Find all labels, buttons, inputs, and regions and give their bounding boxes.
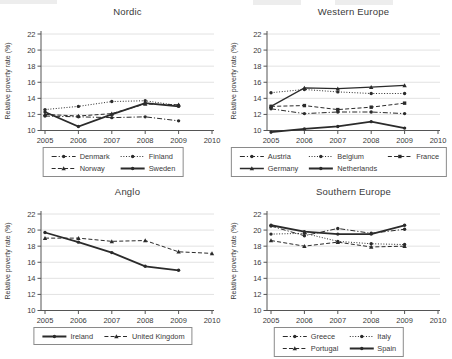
legend-label: Greece	[311, 332, 335, 341]
data-point-marker	[131, 154, 134, 157]
y-tick-label: 18	[253, 242, 261, 251]
data-point-marker	[43, 110, 46, 113]
legend-entry-italy: Italy	[348, 330, 396, 342]
data-point-marker	[403, 101, 406, 104]
data-point-marker	[360, 346, 363, 349]
legend: IrelandUnited Kingdom	[33, 327, 192, 345]
plot-area: 10121416182022200520062007200820092010	[0, 180, 226, 326]
x-tick-label: 2009	[170, 136, 187, 145]
data-point-marker	[144, 101, 147, 104]
y-tick-label: 18	[253, 62, 261, 71]
y-tick-label: 20	[253, 226, 261, 235]
x-tick-label: 2005	[37, 316, 54, 325]
legend: AustriaBelgiumFranceGermanyNetherlands	[231, 147, 447, 177]
data-point-marker	[403, 228, 406, 231]
y-tick-label: 22	[253, 30, 261, 39]
data-point-marker	[269, 232, 272, 235]
y-tick-label: 16	[27, 258, 35, 267]
chart-panel-southern-europe: Southern Europe Relative poverty rate (%…	[226, 180, 452, 359]
legend-entry-norway: Norway	[51, 162, 110, 174]
legend-line-sample	[348, 344, 374, 353]
x-tick-label: 2008	[363, 316, 380, 325]
chart-panel-nordic: Nordic Relative poverty rate (%) 1012141…	[0, 0, 226, 180]
data-point-marker	[403, 92, 406, 95]
data-point-marker	[398, 154, 401, 157]
data-point-marker	[320, 166, 323, 169]
data-point-marker	[370, 232, 373, 235]
data-point-marker	[110, 113, 113, 116]
data-point-marker	[370, 105, 373, 108]
chart-grid: Nordic Relative poverty rate (%) 1012141…	[0, 0, 452, 359]
legend: DenmarkFinlandNorwaySweden	[43, 147, 184, 177]
y-tick-label: 16	[253, 78, 261, 87]
data-point-marker	[336, 108, 339, 111]
legend-line-sample	[239, 164, 265, 173]
x-tick-label: 2008	[137, 136, 154, 145]
data-point-marker	[370, 120, 373, 123]
data-point-marker	[177, 269, 180, 272]
data-point-marker	[62, 154, 65, 157]
plot-area: 10121416182022200520062007200820092010	[0, 0, 226, 146]
legend: GreeceItalyPortugalSpain	[274, 327, 404, 357]
y-tick-label: 12	[27, 110, 35, 119]
x-tick-label: 2010	[430, 136, 447, 145]
x-tick-label: 2008	[363, 136, 380, 145]
x-tick-label: 2007	[329, 136, 346, 145]
data-point-marker	[269, 130, 272, 133]
y-tick-label: 22	[27, 210, 35, 219]
x-tick-label: 2006	[296, 316, 313, 325]
legend-line-sample	[51, 152, 77, 161]
legend-entry-ireland: Ireland	[41, 330, 93, 342]
data-point-marker	[360, 334, 363, 337]
legend-entry-germany: Germany	[239, 162, 298, 174]
y-tick-label: 12	[27, 290, 35, 299]
y-tick-label: 12	[253, 290, 261, 299]
plot-area: 10121416182022200520062007200820092010	[226, 0, 452, 146]
y-tick-label: 22	[27, 30, 35, 39]
y-tick-label: 16	[253, 258, 261, 267]
data-point-marker	[303, 127, 306, 130]
legend-line-sample	[103, 332, 129, 341]
data-point-marker	[77, 240, 80, 243]
data-point-marker	[303, 104, 306, 107]
data-point-marker	[144, 115, 147, 118]
data-point-marker	[403, 126, 406, 129]
legend-line-sample	[348, 332, 374, 341]
data-point-marker	[110, 251, 113, 254]
data-point-marker	[177, 119, 180, 122]
y-tick-label: 14	[253, 94, 261, 103]
legend-entry-sweden: Sweden	[120, 162, 176, 174]
data-point-marker	[144, 265, 147, 268]
y-tick-label: 20	[27, 46, 35, 55]
legend-entry-austria: Austria	[239, 150, 298, 162]
legend-line-sample	[41, 332, 67, 341]
legend-line-sample	[51, 164, 77, 173]
x-tick-label: 2005	[263, 136, 280, 145]
x-tick-label: 2010	[430, 316, 447, 325]
data-point-marker	[293, 334, 296, 337]
x-tick-label: 2008	[137, 316, 154, 325]
y-tick-label: 20	[27, 226, 35, 235]
x-tick-label: 2007	[103, 316, 120, 325]
y-tick-label: 14	[27, 94, 35, 103]
legend-entry-netherlands: Netherlands	[308, 162, 377, 174]
legend-line-sample	[282, 332, 308, 341]
legend-line-sample	[308, 152, 334, 161]
x-tick-label: 2005	[263, 316, 280, 325]
y-tick-label: 10	[27, 306, 35, 315]
data-point-marker	[110, 100, 113, 103]
data-point-marker	[370, 110, 373, 113]
legend-label: Ireland	[70, 332, 93, 341]
data-point-marker	[77, 105, 80, 108]
x-tick-label: 2009	[396, 136, 413, 145]
chart-panel-western-europe: Western Europe Relative poverty rate (%)…	[226, 0, 452, 180]
legend-line-sample	[239, 152, 265, 161]
data-point-marker	[177, 105, 180, 108]
legend-line-sample	[282, 344, 308, 353]
data-point-marker	[336, 125, 339, 128]
x-tick-label: 2006	[70, 316, 87, 325]
y-tick-label: 20	[253, 46, 261, 55]
legend-entry-spain: Spain	[348, 342, 396, 354]
x-tick-label: 2006	[296, 136, 313, 145]
legend-label: United Kingdom	[132, 332, 185, 341]
